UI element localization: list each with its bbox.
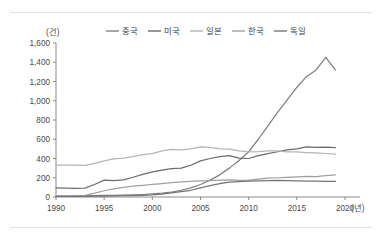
x-axis-unit-label: (년) [351, 203, 365, 213]
x-tick-label: 2015 [288, 204, 307, 213]
series-line-미국 [56, 147, 335, 188]
y-tick-label: 1,400 [30, 58, 51, 67]
legend-label-중국: 중국 [122, 26, 138, 36]
legend-label-일본: 일본 [206, 26, 222, 36]
legend-label-한국: 한국 [248, 26, 264, 36]
y-tick-label: 1,600 [30, 39, 51, 48]
y-tick-label: 600 [36, 135, 50, 144]
y-tick-label: 1,200 [30, 78, 51, 87]
y-tick-label: 1,000 [30, 97, 51, 106]
chart-figure: 중국미국일본한국독일 02004006008001,0001,2001,4001… [0, 0, 382, 241]
x-axis-ticks: 1990199520002005201020152020 [47, 197, 355, 213]
series-lines [56, 57, 335, 196]
plot-area-wrapper: 중국미국일본한국독일 02004006008001,0001,2001,4001… [0, 14, 382, 226]
legend-label-미국: 미국 [164, 26, 180, 36]
chart-legend: 중국미국일본한국독일 [106, 26, 306, 36]
bottom-divider [10, 227, 372, 228]
x-tick-label: 2000 [143, 204, 162, 213]
top-divider [10, 12, 372, 13]
y-tick-label: 200 [36, 174, 50, 183]
y-tick-label: 800 [36, 116, 50, 125]
y-tick-label: 0 [45, 193, 50, 202]
x-tick-label: 1995 [95, 204, 114, 213]
x-tick-label: 2005 [191, 204, 210, 213]
y-axis-unit-label: (건) [46, 27, 60, 37]
series-line-중국 [56, 57, 335, 196]
x-tick-label: 1990 [47, 204, 66, 213]
y-axis-ticks: 02004006008001,0001,2001,4001,600 [30, 39, 57, 202]
line-chart: 중국미국일본한국독일 02004006008001,0001,2001,4001… [0, 14, 382, 226]
legend-label-독일: 독일 [290, 26, 306, 36]
x-tick-label: 2010 [240, 204, 259, 213]
y-tick-label: 400 [36, 155, 50, 164]
